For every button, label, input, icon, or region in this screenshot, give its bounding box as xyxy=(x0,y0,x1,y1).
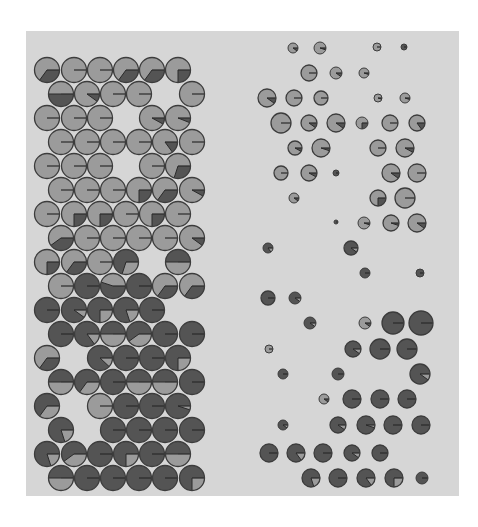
pie-glyph xyxy=(127,370,152,395)
pie-glyph xyxy=(127,322,152,347)
pie-glyph xyxy=(396,139,414,157)
pie-glyph xyxy=(35,250,60,275)
pie-glyph xyxy=(344,241,358,255)
pie-glyph xyxy=(370,140,386,156)
pie-glyph xyxy=(153,418,178,443)
pie-glyph xyxy=(401,44,407,50)
pie-glyph xyxy=(62,442,87,467)
pie-glyph xyxy=(49,226,74,251)
pie-glyph xyxy=(153,178,178,203)
pie-glyph xyxy=(166,346,191,371)
pie-glyph xyxy=(333,170,339,176)
pie-glyph xyxy=(88,250,113,275)
pie-glyph xyxy=(360,268,370,278)
pie-glyph xyxy=(127,226,152,251)
pie-glyph xyxy=(35,202,60,227)
pie-glyph xyxy=(374,94,382,102)
pie-glyph xyxy=(127,82,152,107)
pie-glyph xyxy=(140,298,165,323)
pie-glyph xyxy=(140,202,165,227)
pie-glyph xyxy=(166,58,191,83)
pie-glyph xyxy=(180,418,205,443)
pie-glyph xyxy=(88,202,113,227)
pie-glyph xyxy=(330,417,346,433)
pie-glyph xyxy=(314,42,326,54)
pie-glyph xyxy=(371,390,389,408)
pie-glyph xyxy=(153,226,178,251)
pie-glyph xyxy=(409,311,433,335)
pie-glyph xyxy=(62,202,87,227)
pie-glyph xyxy=(319,394,329,404)
pie-glyph xyxy=(408,164,426,182)
pie-glyph xyxy=(343,390,361,408)
pie-glyph xyxy=(263,243,273,253)
pie-glyph xyxy=(88,346,113,371)
pie-glyph xyxy=(397,339,417,359)
pie-glyph xyxy=(88,154,113,179)
pie-glyph xyxy=(114,442,139,467)
pie-glyph xyxy=(166,154,191,179)
pie-glyph xyxy=(88,58,113,83)
pie-glyph xyxy=(289,193,299,203)
pie-glyph xyxy=(140,442,165,467)
pie-glyph xyxy=(166,106,191,131)
pie-glyph xyxy=(301,165,317,181)
pie-glyph xyxy=(75,130,100,155)
pie-glyph xyxy=(358,217,370,229)
pie-glyph xyxy=(370,339,390,359)
pie-glyph xyxy=(49,466,74,491)
pie-glyph xyxy=(88,298,113,323)
pie-glyph xyxy=(49,178,74,203)
pie-glyph xyxy=(166,202,191,227)
pie-glyph xyxy=(180,226,205,251)
pie-glyph xyxy=(153,466,178,491)
pie-glyph xyxy=(274,166,288,180)
pie-glyph xyxy=(382,115,398,131)
pie-glyph xyxy=(410,364,430,384)
pie-glyph xyxy=(49,130,74,155)
pie-glyph xyxy=(101,82,126,107)
pie-glyph xyxy=(359,317,371,329)
pie-glyph xyxy=(35,442,60,467)
pie-glyph xyxy=(140,346,165,371)
pie-glyph xyxy=(357,469,375,487)
pie-glyph xyxy=(127,418,152,443)
pie-glyph xyxy=(101,178,126,203)
pie-glyph xyxy=(287,444,305,462)
pie-glyph xyxy=(114,346,139,371)
pie-glyph xyxy=(75,226,100,251)
pie-glyph xyxy=(49,82,74,107)
pie-glyph xyxy=(75,466,100,491)
pie-glyph xyxy=(334,220,338,224)
pie-glyph xyxy=(382,164,400,182)
pie-glyph xyxy=(409,115,425,131)
pie-glyph xyxy=(408,214,426,232)
pie-glyph xyxy=(180,82,205,107)
pie-glyph xyxy=(180,130,205,155)
pie-glyph xyxy=(261,291,275,305)
pie-glyph xyxy=(314,91,328,105)
pie-glyph xyxy=(35,346,60,371)
pie-glyph xyxy=(114,394,139,419)
pie-glyph xyxy=(166,442,191,467)
pie-glyph xyxy=(416,472,428,484)
pie-glyph xyxy=(260,444,278,462)
pie-glyph xyxy=(88,442,113,467)
pie-glyph xyxy=(101,322,126,347)
pie-glyph xyxy=(101,274,126,299)
pie-glyph xyxy=(153,130,178,155)
pie-glyph xyxy=(383,215,399,231)
pie-glyph xyxy=(330,67,342,79)
pie-glyph xyxy=(62,106,87,131)
pie-glyph xyxy=(49,322,74,347)
pie-glyph xyxy=(127,274,152,299)
pie-glyph xyxy=(75,274,100,299)
left-glyph-grid xyxy=(35,58,205,491)
pie-glyph xyxy=(344,445,360,461)
pie-glyph xyxy=(180,274,205,299)
pie-glyph xyxy=(101,226,126,251)
pie-glyph xyxy=(370,190,386,206)
pie-glyph xyxy=(180,466,205,491)
pie-glyph xyxy=(62,250,87,275)
pie-glyph xyxy=(114,202,139,227)
